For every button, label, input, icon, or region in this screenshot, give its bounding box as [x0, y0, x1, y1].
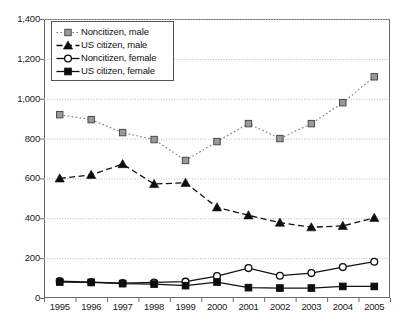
y-axis-tick-label: 800 [4, 134, 40, 144]
legend-label: Noncitizen, female [81, 52, 156, 63]
legend-item-noncitizen-male: Noncitizen, male [55, 25, 169, 38]
chart-container: 1,4001,2001,0008006004002000 19951996199… [0, 0, 402, 331]
legend-item-us-citizen-female: US citizen, female [55, 64, 169, 77]
legend-label: US citizen, male [81, 39, 147, 50]
y-axis-tick-label: 1,400 [4, 14, 40, 24]
legend-marker-square-gray-icon [55, 25, 81, 38]
x-axis-tick-label: 2005 [354, 302, 394, 312]
y-axis-tick-label: 200 [4, 253, 40, 263]
y-axis-tick-label: 1,000 [4, 94, 40, 104]
legend-item-us-citizen-male: US citizen, male [55, 38, 169, 51]
y-axis: 1,4001,2001,0008006004002000 [0, 0, 40, 331]
legend-marker-circle-open-icon [55, 51, 81, 64]
legend-label: Noncitizen, male [81, 26, 149, 37]
y-axis-tick-label: 400 [4, 213, 40, 223]
legend-item-noncitizen-female: Noncitizen, female [55, 51, 169, 64]
legend-marker-triangle-filled-icon [55, 38, 81, 51]
x-axis: 1995199619971998199920002001200220032004… [0, 302, 402, 322]
legend-marker-square-filled-icon [55, 64, 81, 77]
legend-label: US citizen, female [81, 65, 155, 76]
y-axis-tick-label: 1,200 [4, 54, 40, 64]
chart-legend: Noncitizen, male US citizen, male Noncit… [51, 21, 174, 81]
y-axis-tick-label: 600 [4, 173, 40, 183]
